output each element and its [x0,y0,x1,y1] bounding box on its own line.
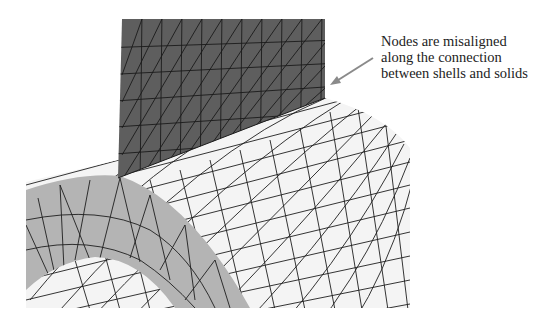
callout-arrow [330,58,373,85]
arrowhead-icon [330,76,341,85]
callout-annotation: Nodes are misaligned along the connectio… [381,33,545,81]
annotation-line-2: along the connection [381,49,545,65]
annotation-line-1: Nodes are misaligned [381,33,545,49]
annotation-line-3: between shells and solids [381,65,545,81]
